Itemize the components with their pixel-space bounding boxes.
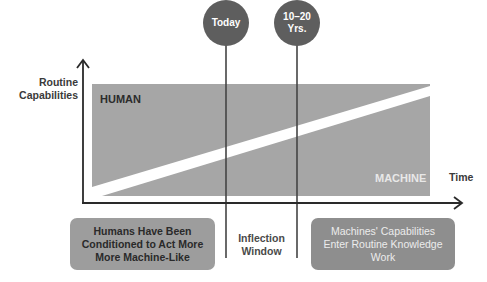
left-box-line2: Conditioned to Act More bbox=[82, 238, 204, 251]
right-box-line3: Work bbox=[371, 251, 395, 264]
left-box-line3: More Machine-Like bbox=[95, 251, 190, 264]
machines-capabilities-box: Machines' Capabilities Enter Routine Kno… bbox=[311, 218, 455, 270]
inflection-line1: Inflection bbox=[226, 232, 297, 245]
milestone-today-label: Today bbox=[212, 17, 241, 29]
y-axis-label: Routine Capabilities bbox=[19, 76, 78, 102]
milestone-future: 10–20 Yrs. bbox=[274, 0, 320, 46]
x-axis-label: Time bbox=[449, 171, 473, 183]
right-box-line1: Machines' Capabilities bbox=[331, 225, 435, 238]
left-box-line1: Humans Have Been bbox=[93, 225, 191, 238]
milestone-future-label-line1: 10–20 bbox=[283, 11, 311, 23]
inflection-window-label: Inflection Window bbox=[226, 232, 297, 258]
milestone-today: Today bbox=[203, 0, 249, 46]
milestone-future-label-line2: Yrs. bbox=[288, 23, 307, 35]
right-box-line2: Enter Routine Knowledge bbox=[323, 238, 442, 251]
humans-conditioned-box: Humans Have Been Conditioned to Act More… bbox=[70, 218, 215, 270]
machine-area-label: MACHINE bbox=[375, 172, 426, 184]
human-area-label: HUMAN bbox=[100, 93, 141, 105]
y-axis-label-line1: Routine bbox=[19, 76, 78, 89]
y-axis-label-line2: Capabilities bbox=[19, 89, 78, 102]
inflection-line2: Window bbox=[226, 245, 297, 258]
